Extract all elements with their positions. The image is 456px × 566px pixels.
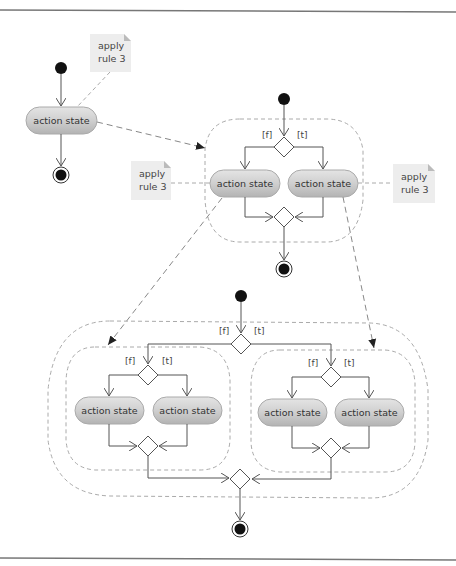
- final-state: [276, 261, 292, 277]
- svg-text:action state: action state: [295, 178, 351, 189]
- svg-text:rule 3: rule 3: [401, 184, 428, 195]
- svg-text:[t]: [t]: [162, 356, 173, 366]
- svg-text:[f]: [f]: [308, 358, 318, 368]
- merge-node: [138, 436, 158, 456]
- svg-text:action state: action state: [264, 407, 320, 418]
- svg-text:[t]: [t]: [254, 326, 265, 336]
- note-apply-rule-3: apply rule 3: [393, 164, 435, 203]
- transform-arrow: [343, 197, 374, 348]
- final-state: [53, 167, 69, 183]
- svg-text:apply: apply: [139, 168, 166, 179]
- transform-arrow: [108, 198, 222, 345]
- svg-text:rule 3: rule 3: [139, 181, 166, 192]
- activity-diagram: action state apply rule 3 [f] [t] action…: [0, 0, 456, 566]
- note-apply-rule-3: apply rule 3: [90, 34, 131, 72]
- transform-arrow: [97, 122, 205, 148]
- svg-text:[t]: [t]: [344, 358, 355, 368]
- panel-rule3-twice: [f] [t] [f] [t] action state action stat…: [48, 290, 428, 537]
- svg-text:action state: action state: [217, 178, 273, 189]
- merge-node: [321, 438, 341, 458]
- merge-node: [230, 469, 250, 489]
- svg-text:action state: action state: [81, 405, 137, 416]
- action-state: action state: [26, 107, 97, 134]
- panel-simple-activity: action state apply rule 3: [26, 34, 205, 183]
- initial-state: [278, 93, 290, 105]
- panel-rule3-once: [f] [t] action state action state apply …: [108, 93, 435, 348]
- action-state: action state: [210, 170, 280, 197]
- decision-node: [231, 334, 251, 354]
- svg-text:apply: apply: [401, 171, 428, 182]
- merge-node: [274, 207, 294, 227]
- initial-state: [235, 290, 247, 302]
- final-state: [232, 521, 248, 537]
- action-state: action state: [153, 397, 222, 424]
- initial-state: [55, 62, 67, 74]
- action-state: action state: [75, 397, 144, 424]
- note-apply-rule-3: apply rule 3: [131, 161, 171, 200]
- svg-text:[f]: [f]: [262, 130, 272, 140]
- decision-node: [321, 367, 341, 387]
- svg-text:[f]: [f]: [219, 326, 229, 336]
- svg-text:action state: action state: [159, 405, 215, 416]
- action-state-label: action state: [33, 115, 89, 126]
- top-rule: [0, 10, 456, 12]
- action-state: action state: [258, 399, 327, 426]
- action-state: action state: [288, 170, 358, 197]
- svg-text:apply: apply: [98, 40, 125, 51]
- svg-text:[t]: [t]: [297, 130, 308, 140]
- bottom-rule: [0, 558, 456, 560]
- svg-text:action state: action state: [341, 407, 397, 418]
- svg-text:[f]: [f]: [125, 356, 135, 366]
- decision-node: [274, 137, 294, 157]
- svg-text:rule 3: rule 3: [98, 53, 125, 64]
- decision-node: [138, 365, 158, 385]
- action-state: action state: [335, 399, 404, 426]
